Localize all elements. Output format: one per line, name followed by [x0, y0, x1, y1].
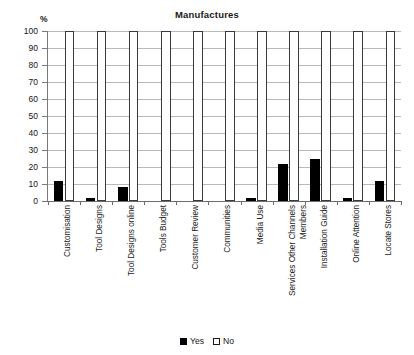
y-tick-label-40: 40: [8, 129, 38, 138]
y-tick-100: [42, 31, 47, 32]
bar-yes[interactable]: [278, 164, 288, 201]
y-tick-label-50: 50: [8, 112, 38, 121]
bar-group: [48, 31, 80, 201]
bar-no[interactable]: [225, 31, 235, 201]
category-label: Customer Review: [176, 205, 208, 323]
y-tick-label-80: 80: [8, 61, 38, 70]
category-label-line: Locate Stores: [385, 205, 394, 256]
bar-yes[interactable]: [310, 159, 320, 202]
category-label-line: Tools Budget: [160, 205, 169, 252]
bar-group: [80, 31, 112, 201]
bar-group: [337, 31, 369, 201]
category-label: Tools Budget: [144, 205, 176, 323]
manufactures-bar-chart: Manufactures % 1009080706050403020100 Cu…: [0, 0, 414, 355]
bar-yes[interactable]: [375, 181, 385, 201]
y-tick-50: [42, 116, 47, 117]
y-tick-label-60: 60: [8, 95, 38, 104]
chart-title: Manufactures: [0, 9, 414, 20]
y-tick-label-100: 100: [8, 27, 38, 36]
category-label-line: Media Use: [257, 205, 266, 244]
chart-legend: YesNo: [0, 336, 414, 346]
bar-no[interactable]: [161, 31, 171, 201]
open-square-icon: [213, 338, 220, 345]
y-tick-70: [42, 82, 47, 83]
category-label: Locate Stores: [369, 205, 401, 323]
y-tick-label-90: 90: [8, 44, 38, 53]
legend-label: Yes: [190, 336, 204, 346]
y-tick-label-10: 10: [8, 180, 38, 189]
category-label: Customisation: [48, 205, 80, 323]
bar-group: [241, 31, 273, 201]
category-label: Installation Guide: [305, 205, 337, 323]
y-tick-20: [42, 167, 47, 168]
bar-group: [144, 31, 176, 201]
category-label: Communities: [208, 205, 240, 323]
y-tick-30: [42, 150, 47, 151]
bar-group: [176, 31, 208, 201]
plot-area: [48, 31, 401, 201]
category-label: Media Use: [241, 205, 273, 323]
bar-no[interactable]: [193, 31, 203, 201]
category-label-line: Installation Guide: [321, 205, 330, 268]
y-tick-label-70: 70: [8, 78, 38, 87]
bar-no[interactable]: [353, 31, 363, 201]
legend-item[interactable]: No: [213, 336, 234, 346]
legend-item[interactable]: Yes: [180, 336, 204, 346]
x-axis-line: [47, 201, 402, 202]
bar-group: [208, 31, 240, 201]
bar-yes[interactable]: [54, 181, 64, 201]
y-tick-80: [42, 65, 47, 66]
bar-no[interactable]: [97, 31, 107, 201]
bar-group: [273, 31, 305, 201]
bar-no[interactable]: [321, 31, 331, 201]
bar-group: [305, 31, 337, 201]
y-axis-unit-label: %: [40, 14, 48, 24]
bar-no[interactable]: [289, 31, 299, 201]
category-label-line: Services Other Channels: [289, 205, 298, 296]
category-label-line: Customisation: [64, 205, 73, 257]
category-label: Online Attention: [337, 205, 369, 323]
category-label-line: Customer Review: [192, 205, 201, 270]
filled-square-icon: [180, 338, 187, 345]
x-tick: [401, 201, 402, 205]
bar-no[interactable]: [386, 31, 396, 201]
y-tick-90: [42, 48, 47, 49]
category-label-line: Tool Designs: [96, 205, 105, 252]
y-tick-40: [42, 133, 47, 134]
bar-no[interactable]: [65, 31, 75, 201]
x-axis-category-labels: CustomisationTool DesignsTool Designs on…: [48, 205, 401, 325]
y-tick-10: [42, 184, 47, 185]
bar-group: [112, 31, 144, 201]
bar-yes[interactable]: [118, 187, 128, 201]
y-tick-label-0: 0: [8, 197, 38, 206]
bar-no[interactable]: [129, 31, 139, 201]
category-label-line: Online Attention: [353, 205, 362, 263]
y-tick-60: [42, 99, 47, 100]
category-label: Services Other ChannelsMembers: [273, 205, 305, 323]
y-tick-label-30: 30: [8, 146, 38, 155]
y-tick-0: [42, 201, 47, 202]
category-label-line: Communities: [224, 205, 233, 253]
legend-label: No: [223, 336, 234, 346]
category-label: Tool Designs: [80, 205, 112, 323]
bar-group: [369, 31, 401, 201]
bar-no[interactable]: [257, 31, 267, 201]
category-label: Tool Designs online: [112, 205, 144, 323]
category-label-line: Tool Designs online: [128, 205, 137, 276]
y-tick-label-20: 20: [8, 163, 38, 172]
